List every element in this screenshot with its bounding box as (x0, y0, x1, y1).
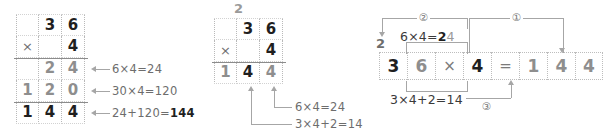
equals-sign: = (491, 52, 519, 80)
rule-under-multiplier (14, 58, 88, 59)
cell-total-hundreds: 1 (16, 102, 39, 124)
table-row: 1 2 0 (16, 80, 85, 102)
panel-expanded-long-multiplication: 3 6 × 4 2 4 1 2 0 1 4 4 6×4=24 30×4=120 (0, 0, 200, 140)
cell-partial-ones-ones: 4 (62, 58, 85, 80)
table-row: × 4 (214, 40, 283, 62)
carry-arrow-icon (379, 32, 385, 37)
cell-partial-tens-ones: 0 (62, 80, 85, 102)
result-ones: 4 (575, 52, 603, 80)
cell-empty (39, 36, 62, 58)
cell-empty (237, 40, 260, 62)
digit-4: 4 (463, 52, 491, 80)
annotation-bottom: 3×4+2=14 (390, 92, 463, 107)
cell-times-sign: × (16, 36, 39, 58)
annotation-ones-digit: 6×4=24 (295, 100, 345, 114)
cell-multiplicand-ones: 6 (62, 14, 85, 36)
digit-6: 6 (407, 52, 435, 80)
annotation-sum-result: 144 (170, 106, 195, 120)
panel-compact-long-multiplication: 2 3 6 × 4 1 4 4 6×4=24 3×4+2=14 (196, 0, 366, 140)
cell-partial-ones-tens: 2 (39, 58, 62, 80)
cell-empty (214, 18, 237, 40)
cell-multiplier: 4 (260, 40, 283, 62)
arrow-icon-step-1 (559, 48, 565, 53)
cell-product-tens: 4 (237, 62, 260, 84)
annotation-ones: 6×4=24 (112, 62, 162, 76)
cell-total-ones: 4 (62, 102, 85, 124)
cell-multiplicand-ones: 6 (260, 18, 283, 40)
rule-under-partials (14, 102, 88, 103)
table-row: × 4 (16, 36, 85, 58)
digit-3: 3 (379, 52, 407, 80)
table-row: 1 4 4 (214, 62, 283, 84)
long-multiplication-grid: 3 6 × 4 1 4 4 (214, 18, 283, 84)
equation-strip: 3 6 × 4 = 1 4 4 (379, 52, 603, 80)
connector-vertical-ones (274, 90, 275, 107)
arrow-line-sum (96, 113, 110, 114)
bracket-tens-source (406, 42, 468, 54)
connector-horizontal-tens (251, 124, 292, 125)
connector-horizontal-ones (274, 107, 292, 108)
carry-digit: 2 (376, 36, 385, 51)
arrow-line-tens (96, 91, 110, 92)
cell-product-hundreds: 1 (214, 62, 237, 84)
connector-vertical-step-3 (511, 84, 512, 98)
cell-product-ones: 4 (260, 62, 283, 84)
table-row: 3 6 (16, 14, 85, 36)
cell-total-tens: 4 (39, 102, 62, 124)
cell-partial-tens-hundreds: 1 (16, 80, 39, 102)
annotation-tens: 30×4=120 (112, 84, 178, 98)
cell-empty (16, 14, 39, 36)
cell-partial-tens-tens: 2 (39, 80, 62, 102)
panel-horizontal-multiplication-steps: 3 6 × 4 = 1 4 4 2 ② ① 6×4=24 3×4+2=14 ③ (360, 0, 579, 140)
result-hundreds: 1 (519, 52, 547, 80)
connector-vertical-tens (251, 90, 252, 124)
table-row: 3 6 (214, 18, 283, 40)
annotation-sum: 24+120=144 (112, 106, 195, 120)
carry-digit: 2 (234, 1, 243, 16)
bracket-step-3-source (406, 81, 468, 92)
connector-horizontal-step-3 (466, 98, 511, 99)
step-label-3: ③ (480, 101, 493, 112)
cell-empty (16, 58, 39, 80)
cell-multiplicand-tens: 3 (39, 14, 62, 36)
result-tens: 4 (547, 52, 575, 80)
cell-multiplier: 4 (62, 36, 85, 58)
times-sign: × (435, 52, 463, 80)
step-label-1: ① (510, 12, 523, 23)
table-row: 2 4 (16, 58, 85, 80)
cell-times-sign: × (214, 40, 237, 62)
table-row: 1 4 4 (16, 102, 85, 124)
annotation-sum-prefix: 24+120= (112, 106, 170, 120)
cell-multiplicand-tens: 3 (237, 18, 260, 40)
annotation-tens-digit: 3×4+2=14 (295, 117, 363, 131)
bracket-step-1 (469, 18, 564, 53)
step-label-2: ② (417, 12, 430, 23)
rule-under-multiplier (212, 62, 286, 63)
long-multiplication-grid: 3 6 × 4 2 4 1 2 0 1 4 4 (16, 14, 85, 124)
arrow-line-ones (96, 69, 110, 70)
